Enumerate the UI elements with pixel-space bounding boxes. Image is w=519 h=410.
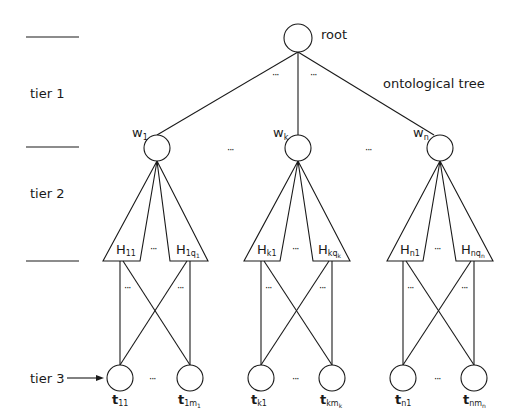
ellipsis: ··· [461, 282, 468, 293]
edge [120, 261, 187, 365]
ellipsis-t: ··· [292, 373, 299, 384]
h-right-label: Hkqk [318, 242, 342, 259]
h-triangle-left [244, 161, 298, 261]
ellipsis-h: ··· [434, 243, 441, 254]
h-triangle-left [387, 161, 440, 261]
ellipsis-w-k-n: ··· [365, 144, 372, 155]
t-node-right [461, 365, 487, 391]
ellipsis: ··· [124, 282, 131, 293]
edge [123, 261, 190, 365]
t-right-label: tkmk [320, 392, 343, 409]
edge-root-wn [298, 52, 434, 135]
h-left-label: Hk1 [257, 242, 277, 258]
tier-2-label: tier 2 [30, 186, 64, 201]
t-left-label: tk1 [251, 392, 267, 408]
w-node [144, 135, 170, 161]
h-right-label: Hnqn [461, 242, 485, 259]
t-left-label: t11 [112, 392, 128, 408]
subtree-1: w1 H11 ··· H1q1 ··· ··· ··· t11 t1m1 [103, 125, 208, 409]
t-right-label: t1m1 [178, 392, 201, 409]
h-right-label: H1q1 [176, 242, 200, 259]
ellipsis-w-1-k: ··· [227, 144, 234, 155]
ellipsis-t: ··· [149, 373, 156, 384]
ellipsis-t: ··· [434, 373, 441, 384]
w-label: wn [413, 125, 429, 142]
w-node [285, 135, 311, 161]
edge [406, 261, 474, 365]
t-node-right [177, 365, 203, 391]
t-node-left [248, 365, 274, 391]
edge [264, 261, 332, 365]
root-node [284, 24, 312, 52]
edge [261, 261, 329, 365]
t-right-label: tnmn [463, 392, 486, 409]
ontological-tree-diagram: tier 1 tier 2 tier 3 ··· ··· root ontolo… [0, 0, 519, 410]
ellipsis: ··· [319, 282, 326, 293]
h-left-label: H11 [116, 242, 136, 258]
t-node-left [107, 365, 133, 391]
ellipsis-h: ··· [292, 243, 299, 254]
w-node [427, 135, 453, 161]
ellipsis: ··· [177, 282, 184, 293]
h-left-label: Hn1 [400, 242, 420, 258]
arrowhead-icon [96, 375, 104, 381]
tier-1-label: tier 1 [30, 86, 64, 101]
subtree-k: wk Hk1 ··· Hkqk ··· ··· ··· tk1 tkmk [244, 125, 350, 409]
edge [403, 261, 471, 365]
ellipsis: ··· [407, 282, 414, 293]
root-label: root [321, 27, 347, 42]
ellipsis-root-right: ··· [310, 69, 317, 80]
ellipsis-h: ··· [150, 243, 157, 254]
w-label: w1 [132, 125, 148, 142]
tier-3-label: tier 3 [30, 371, 64, 386]
subtree-n: wn Hn1 ··· Hnqn ··· ··· ··· tn1 tnmn [387, 125, 493, 409]
ellipsis-root-left: ··· [272, 69, 279, 80]
ontological-tree-title: ontological tree [383, 76, 485, 91]
edge-root-w1 [157, 52, 298, 135]
w-label: wk [273, 125, 289, 142]
ellipsis: ··· [265, 282, 272, 293]
t-node-left [390, 365, 416, 391]
t-node-right [319, 365, 345, 391]
t-left-label: tn1 [395, 392, 411, 408]
h-triangle-left [103, 161, 157, 261]
